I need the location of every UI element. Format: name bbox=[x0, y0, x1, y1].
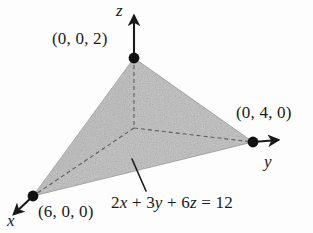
equation-term3-coefficient: 6 bbox=[181, 193, 190, 212]
equation-term1-variable: x bbox=[120, 193, 128, 212]
y-intercept-dot bbox=[248, 137, 259, 148]
plane-equation-label: 2x + 3y + 6z = 12 bbox=[111, 194, 233, 211]
equation-equals-sign: = bbox=[201, 193, 211, 212]
z-intercept-label: (0, 0, 2) bbox=[52, 30, 108, 47]
x-intercept-label: (6, 0, 0) bbox=[38, 203, 94, 220]
axis-label-x: x bbox=[7, 212, 15, 229]
equation-term2-coefficient: 3 bbox=[146, 193, 155, 212]
equation-right-hand-side: 12 bbox=[216, 193, 233, 212]
equation-operator-2: + bbox=[167, 193, 177, 212]
y-intercept-label: (0, 4, 0) bbox=[236, 104, 292, 121]
x-intercept-dot bbox=[28, 191, 39, 202]
equation-term3-variable: z bbox=[190, 193, 197, 212]
axis-label-y: y bbox=[264, 153, 272, 170]
shaded-plane-region bbox=[33, 58, 253, 196]
plane-intercept-figure: (0, 0, 2) (0, 4, 0) (6, 0, 0) z y x 2x +… bbox=[0, 0, 313, 233]
equation-operator-1: + bbox=[132, 193, 142, 212]
z-intercept-dot bbox=[129, 53, 140, 64]
equation-term1-coefficient: 2 bbox=[111, 193, 120, 212]
equation-term2-variable: y bbox=[155, 193, 163, 212]
axis-label-z: z bbox=[116, 2, 123, 19]
plane-triangle bbox=[33, 58, 253, 196]
